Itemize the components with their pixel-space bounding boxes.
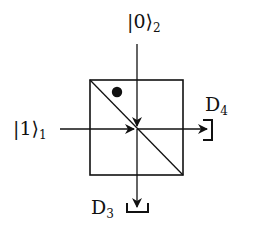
detector-d3-name: D [91,196,106,218]
detector-d4-icon [203,120,212,140]
input-2-label: |0⟩2 [127,12,161,34]
input-1-label: |1⟩1 [13,119,47,141]
detector-d4-name: D [205,93,220,115]
beam-splitter-diagram: |0⟩2 |1⟩1 D4 D3 [0,0,254,227]
detector-d3-label: D3 [91,198,114,220]
detector-d4-index: 4 [220,104,228,118]
detector-d4-label: D4 [205,95,228,117]
detector-d3-index: 3 [106,207,114,221]
input-1-ket: 1 [19,117,31,139]
input-2-mode: 2 [153,21,161,35]
beam-splitter-dot-icon [112,87,122,97]
input-1-mode: 1 [39,128,47,142]
input-2-ket: 0 [133,10,145,32]
